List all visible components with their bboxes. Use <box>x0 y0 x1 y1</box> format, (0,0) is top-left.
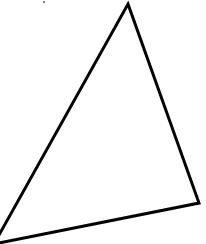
triangle-shape <box>0 4 199 244</box>
triangle-diagram <box>0 0 206 244</box>
scan-artifact <box>43 1 45 3</box>
